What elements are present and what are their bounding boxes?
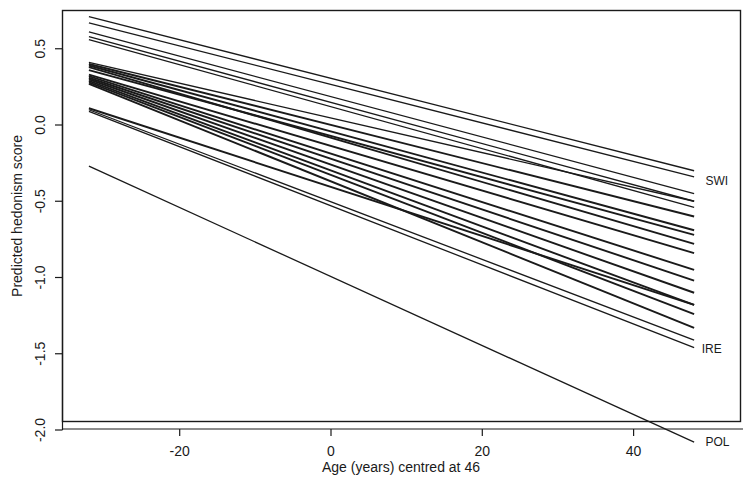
y-tick-label: 0.5 <box>32 39 48 59</box>
series-line <box>89 62 694 201</box>
y-tick-label: -1.0 <box>32 265 48 289</box>
series-line <box>89 40 694 208</box>
series-line <box>89 70 694 235</box>
series-line <box>89 32 694 194</box>
y-axis: 0.50.0-0.5-1.0-1.5-2.0 <box>32 39 63 442</box>
x-tick-label: 20 <box>475 443 491 459</box>
chart-figure: 0.50.0-0.5-1.0-1.5-2.0 -2002040 SWIIREPO… <box>0 0 743 487</box>
x-axis-title: Age (years) centred at 46 <box>322 459 480 475</box>
x-tick-label: 0 <box>327 443 335 459</box>
series-line <box>89 23 694 177</box>
series-line <box>89 108 694 305</box>
y-tick-label: 0.0 <box>32 115 48 135</box>
x-axis: -2002040 <box>63 429 743 459</box>
chart-canvas: 0.50.0-0.5-1.0-1.5-2.0 -2002040 SWIIREPO… <box>0 0 743 487</box>
series-line <box>89 37 694 202</box>
x-tick-label: -20 <box>170 443 190 459</box>
series-label-swi: SWI <box>705 174 728 188</box>
x-tick-label: 40 <box>626 443 642 459</box>
series-line <box>89 75 694 253</box>
series-line <box>89 82 694 314</box>
series-line <box>89 76 694 270</box>
y-tick-label: -0.5 <box>32 189 48 213</box>
series-lines <box>89 17 694 442</box>
series-line <box>89 79 694 293</box>
series-label-pol: POL <box>705 435 729 449</box>
series-line <box>89 78 694 281</box>
series-annotations: SWIIREPOL <box>702 174 730 449</box>
y-axis-title: Predicted hedonism score <box>9 135 25 297</box>
series-line <box>89 111 694 347</box>
series-label-ire: IRE <box>702 342 722 356</box>
series-line <box>89 110 694 340</box>
y-tick-label: -1.5 <box>32 341 48 365</box>
y-tick-label: -2.0 <box>32 418 48 442</box>
